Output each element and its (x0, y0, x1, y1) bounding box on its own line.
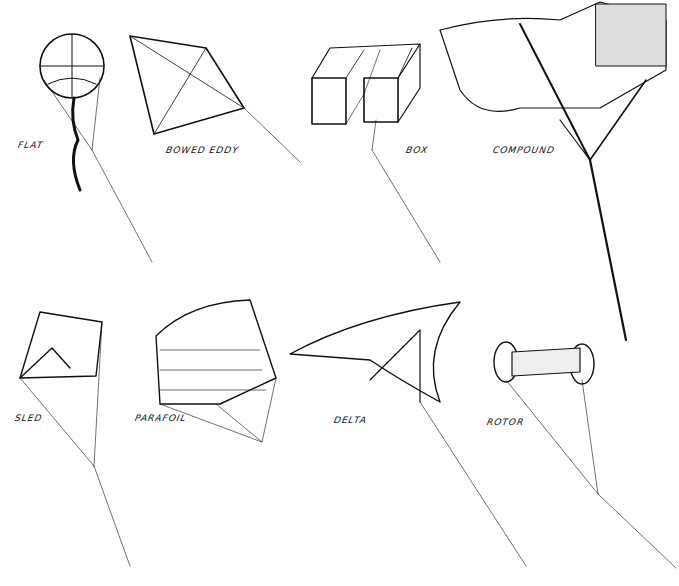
delta-kite-drawing (290, 302, 526, 566)
bowed-eddy-kite-drawing (130, 36, 300, 162)
label-delta: DELTA (333, 415, 368, 425)
kite-illustration: FLAT BOWED EDDY BOX COMPOUND SLED PARAFO… (0, 0, 679, 586)
label-compound: COMPOUND (492, 145, 556, 155)
label-rotor: ROTOR (486, 417, 525, 427)
label-bowed-eddy: BOWED EDDY (165, 145, 239, 155)
label-sled: SLED (14, 413, 43, 423)
sled-kite-drawing (20, 312, 130, 566)
label-box: BOX (405, 145, 429, 155)
label-flat: FLAT (17, 140, 44, 150)
flat-kite-drawing (40, 34, 152, 262)
compound-kite-drawing (440, 2, 666, 340)
rotor-kite-drawing (494, 342, 676, 568)
label-parafoil: PARAFOIL (134, 413, 187, 423)
